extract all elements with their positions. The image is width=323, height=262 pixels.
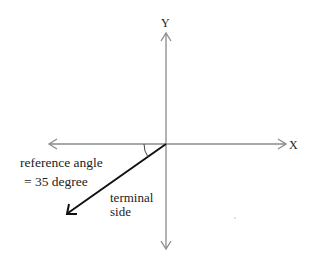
y-axis xyxy=(161,33,171,249)
x-axis xyxy=(49,139,286,149)
reference-angle-label: reference angle xyxy=(20,155,103,170)
reference-angle-arc xyxy=(144,144,148,157)
artifact-dot xyxy=(234,217,236,219)
reference-angle-diagram: Y X reference angle = 35 degree terminal… xyxy=(0,0,323,262)
y-axis-label: Y xyxy=(161,16,170,30)
terminal-side-label-line1: terminal xyxy=(110,190,154,205)
reference-angle-value: = 35 degree xyxy=(24,174,88,189)
terminal-side-label-line2: side xyxy=(110,204,131,219)
x-axis-label: X xyxy=(289,138,298,152)
